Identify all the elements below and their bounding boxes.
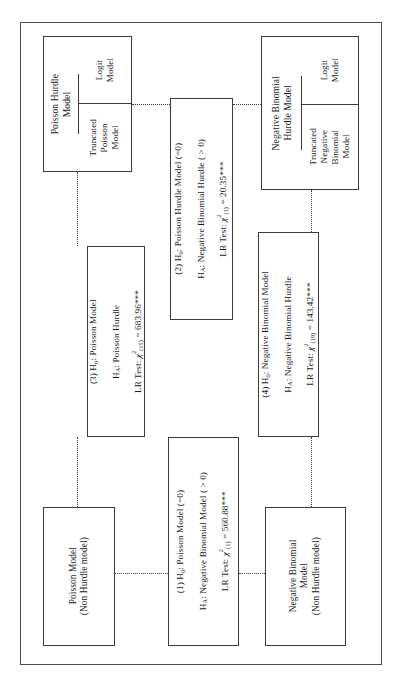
poisson-model-non-hurdle-label: Poisson Model (Non Hurdle model) <box>68 537 91 615</box>
negbin-hurdle-logit-label: Logit Model <box>319 58 341 82</box>
test-4-stat-line: LR Test: χ2(19) = 143.42*** <box>305 271 316 398</box>
node-negative-binomial-model-non-hurdle: Negative Binomial Model (Non Hurdle mode… <box>265 507 346 646</box>
node-poisson-model-non-hurdle: Poisson Model (Non Hurdle model) <box>43 507 115 646</box>
test-2-h0-line: (2) H0: Poisson Hurdle Model (=0) <box>173 139 184 279</box>
negbin-hurdle-title: Negative Binomial Hurdle Model <box>270 76 293 150</box>
poisson-hurdle-subcolumn: Logit Model Truncated Poisson Model <box>79 37 131 171</box>
test-3-h0-line: (3) H0: Poisson Model <box>88 290 99 393</box>
test-4-h0-line: (4) H0: Negative Binomial Model <box>260 271 271 398</box>
test-1-content: (1) H0: Poisson Model (=0) HA: Negative … <box>164 472 243 610</box>
negbin-model-non-hurdle-label: Negative Binomial Model (Non Hurdle mode… <box>288 537 322 615</box>
negbin-hurdle-truncated-label: Truncated Negative Binomial Model <box>308 128 352 165</box>
test-1-ha-line: HA: Negative Binomial Model ( > 0) <box>198 472 209 610</box>
test-3-ha-line: HA: Poisson Hurdle <box>110 290 121 393</box>
test-2-content: (2) H0: Poisson Hurdle Model (=0) HA: Ne… <box>162 139 241 279</box>
test-2-ha-line: HA: Negative Binomial Hurdle ( > 0) <box>196 139 207 279</box>
node-test-4-box: (4) H0: Negative Binomial Model HA: Nega… <box>258 232 319 437</box>
negbin-hurdle-logit-cell: Logit Model <box>302 37 358 105</box>
poisson-hurdle-truncated-label: Truncated Poisson Model <box>88 119 121 156</box>
negbin-hurdle-subcolumn: Logit Model Truncated Negative Binomial … <box>302 37 358 189</box>
test-3-content: (3) H0: Poisson Model HA: Poisson Hurdle… <box>77 290 156 393</box>
node-poisson-hurdle-model: Poisson Hurdle Model Logit Model Truncat… <box>43 36 132 172</box>
connector-test4-to-negbin-plain <box>311 437 312 507</box>
connector-negbin-plain-to-test1 <box>239 573 265 574</box>
connector-poisson-hurdle-to-test2 <box>132 104 170 105</box>
connector-negbin-hurdle-to-test4 <box>311 190 312 232</box>
test-2-stat-line: LR Test: χ2(1) = 20.35*** <box>218 139 229 279</box>
connector-poisson-plain-to-test1 <box>115 573 168 574</box>
node-test-2-box: (2) H0: Poisson Hurdle Model (=0) HA: Ne… <box>170 98 233 320</box>
node-test-1-box: (1) H0: Poisson Model (=0) HA: Negative … <box>168 437 239 646</box>
negbin-hurdle-truncated-cell: Truncated Negative Binomial Model <box>302 105 358 189</box>
test-4-content: (4) H0: Negative Binomial Model HA: Nega… <box>249 271 328 398</box>
poisson-hurdle-logit-label: Logit Model <box>94 58 116 82</box>
poisson-hurdle-truncated-cell: Truncated Poisson Model <box>79 104 131 171</box>
test-1-h0-line: (1) H0: Poisson Model (=0) <box>175 472 186 610</box>
connector-poisson-hurdle-to-test3 <box>77 172 78 246</box>
figure-root: Poisson Hurdle Model Logit Model Truncat… <box>0 0 401 688</box>
poisson-hurdle-logit-cell: Logit Model <box>79 37 131 104</box>
node-test-3-box: (3) H0: Poisson Model HA: Poisson Hurdle… <box>87 246 145 437</box>
test-4-ha-line: HA: Negative Binomial Hurdle <box>283 271 294 398</box>
poisson-hurdle-title-cell: Poisson Hurdle Model <box>44 74 79 134</box>
negbin-hurdle-title-cell: Negative Binomial Hurdle Model <box>262 76 302 150</box>
connector-test3-to-poisson-plain <box>77 437 78 507</box>
test-1-stat-line: LR Test: χ2(1) = 560.88*** <box>220 472 231 610</box>
node-negative-binomial-hurdle-model: Negative Binomial Hurdle Model Logit Mod… <box>261 36 359 190</box>
connector-test2-to-negbin-hurdle <box>233 104 261 105</box>
poisson-hurdle-title: Poisson Hurdle Model <box>49 74 72 134</box>
test-3-stat-line: LR Test: χ2(15) = 683.96*** <box>133 290 144 393</box>
